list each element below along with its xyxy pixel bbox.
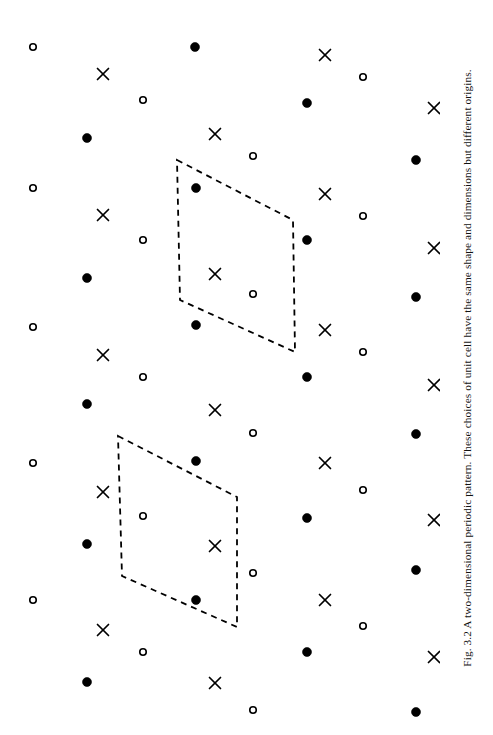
open-circle-marker [250,153,257,160]
pattern-area [0,0,440,735]
open-circle-marker [360,74,367,81]
filled-circle-marker [83,678,92,687]
symbol-layer [30,43,440,717]
open-circle-marker [250,707,257,714]
caption-area: Fig. 3.2 A two-dimensional periodic patt… [440,0,493,735]
open-circle-marker [360,487,367,494]
cross-marker [320,325,331,336]
open-circle-marker [140,374,147,381]
open-circle-marker [30,324,37,331]
periodic-pattern-svg [0,0,440,735]
cross-marker [210,269,221,280]
cross-marker [210,678,221,689]
filled-circle-marker [83,274,92,283]
open-circle-marker [360,349,367,356]
open-circle-marker [360,623,367,630]
open-circle-marker [30,460,37,467]
filled-circle-marker [303,514,312,523]
open-circle-marker [30,597,37,604]
cross-marker [320,189,331,200]
cross-marker [210,405,221,416]
filled-circle-marker [191,43,200,52]
filled-circle-marker [412,156,421,165]
cross-marker [98,210,109,221]
cross-marker [320,50,331,61]
open-circle-marker [250,291,257,298]
open-circle-marker [30,185,37,192]
open-circle-marker [140,97,147,104]
filled-circle-marker [412,566,421,575]
open-circle-marker [140,513,147,520]
filled-circle-marker [83,134,92,143]
open-circle-marker [250,430,257,437]
cross-marker [210,541,221,552]
filled-circle-marker [192,596,201,605]
open-circle-marker [140,237,147,244]
lower-unit-cell [118,436,237,627]
cross-marker [210,129,221,140]
cross-marker [98,625,109,636]
cross-marker [98,350,109,361]
filled-circle-marker [303,648,312,657]
cross-marker [429,380,440,391]
filled-circle-marker [303,236,312,245]
figure-caption: Fig. 3.2 A two-dimensional periodic patt… [460,18,474,718]
open-circle-marker [250,570,257,577]
cross-marker [429,103,440,114]
figure-root: Fig. 3.2 A two-dimensional periodic patt… [0,0,493,735]
open-circle-marker [360,213,367,220]
cross-marker [320,595,331,606]
open-circle-marker [140,649,147,656]
filled-circle-marker [303,99,312,108]
filled-circle-marker [192,321,201,330]
cross-marker [98,487,109,498]
cross-marker [429,652,440,663]
open-circle-marker [30,44,37,51]
unit-cell-layer [118,160,295,627]
cross-marker [320,458,331,469]
filled-circle-marker [83,400,92,409]
filled-circle-marker [412,708,421,717]
cross-marker [429,243,440,254]
cross-marker [429,515,440,526]
filled-circle-marker [412,293,421,302]
filled-circle-marker [192,457,201,466]
filled-circle-marker [412,430,421,439]
cross-marker [98,69,109,80]
filled-circle-marker [192,184,201,193]
filled-circle-marker [303,373,312,382]
filled-circle-marker [83,540,92,549]
